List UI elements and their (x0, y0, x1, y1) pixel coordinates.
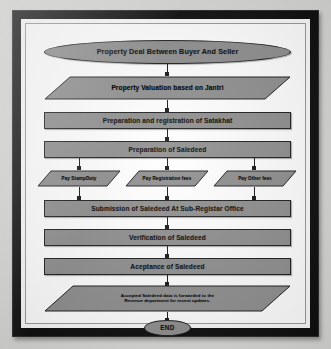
node-forwarded-to-revenue-label: Accepted Saledeed data is forwarded to t… (117, 294, 218, 304)
node-verification[interactable]: Verification of Saledeed (44, 229, 291, 246)
flowchart-canvas: Property Deal Between Buyer And Seller P… (26, 24, 309, 327)
node-start-label: Property Deal Between Buyer And Seller (93, 48, 243, 56)
picture-frame-outer: Property Deal Between Buyer And Seller P… (12, 10, 319, 337)
node-end[interactable]: END (144, 320, 191, 336)
node-saledeed[interactable]: Preparation of Saledeed (44, 141, 291, 158)
node-saledeed-label: Preparation of Saledeed (125, 146, 211, 153)
node-valuation-label: Property Valuation based on Jantri (107, 84, 227, 91)
node-submission[interactable]: Submission of Saledeed At Sub-Registar O… (44, 200, 291, 217)
node-pay-registration-fees-label: Pay Registration fees (139, 176, 196, 181)
picture-frame-mat: Property Deal Between Buyer And Seller P… (21, 19, 310, 328)
node-end-label: END (156, 324, 179, 331)
node-forwarded-to-revenue[interactable]: Accepted Saledeed data is forwarded to t… (44, 285, 291, 312)
node-pay-other-fees[interactable]: Pay Other fees (213, 170, 297, 187)
node-valuation[interactable]: Property Valuation based on Jantri (44, 76, 291, 100)
scanned-page: Property Deal Between Buyer And Seller P… (0, 0, 331, 349)
node-acceptance[interactable]: Aceptance of Saledeed (44, 258, 291, 275)
forwarded-label-line2: Revenue department for recent updates. (124, 298, 210, 303)
node-pay-registration-fees[interactable]: Pay Registration fees (125, 170, 209, 187)
node-submission-label: Submission of Saledeed At Sub-Registar O… (87, 205, 248, 212)
node-pay-stampduty[interactable]: Pay StampDuty (37, 170, 121, 187)
picture-frame-inner-line: Property Deal Between Buyer And Seller P… (25, 23, 306, 324)
node-verification-label: Verification of Saledeed (125, 234, 210, 241)
node-start[interactable]: Property Deal Between Buyer And Seller (44, 40, 291, 64)
node-satakhat-label: Preparation and registration of Satakhat (99, 117, 237, 124)
node-pay-other-fees-label: Pay Other fees (234, 176, 276, 181)
node-acceptance-label: Aceptance of Saledeed (126, 263, 208, 270)
node-satakhat[interactable]: Preparation and registration of Satakhat (44, 112, 291, 129)
node-pay-stampduty-label: Pay StampDuty (58, 176, 101, 181)
